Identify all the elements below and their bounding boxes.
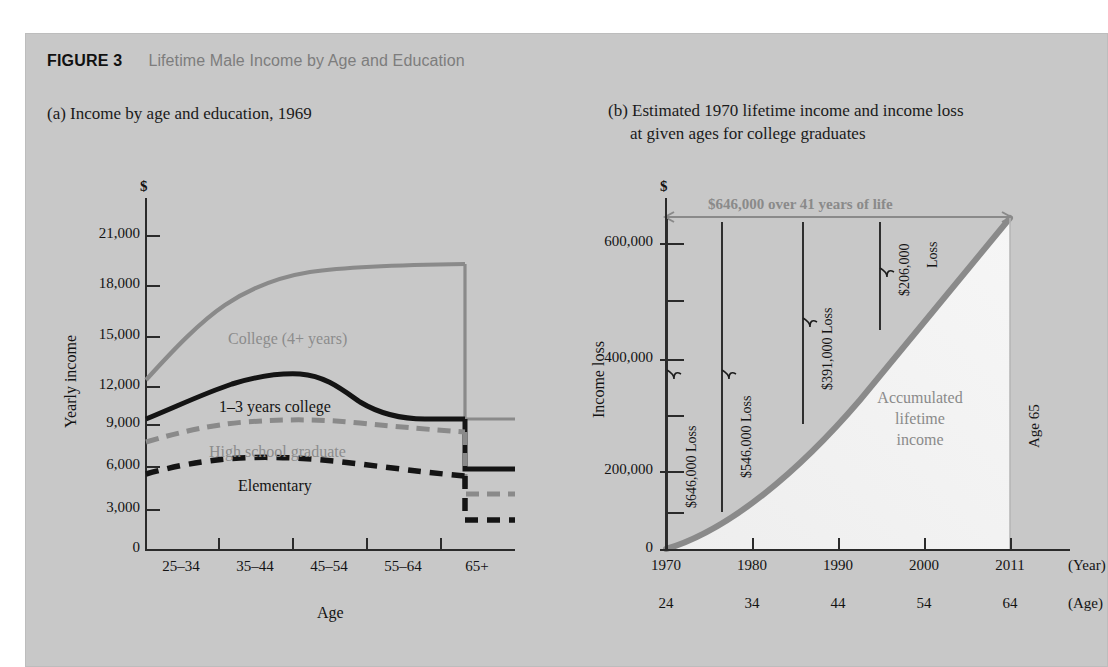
panel-b-y-tick-mark [660,471,684,473]
age-65-label: Age 65 [1026,404,1043,448]
panel-b-x-tick-label-age: 24 [621,595,711,612]
panel-b-x-tick-label-age: 64 [965,595,1055,612]
curve-college [146,264,465,380]
panel-b-x-tick-label-year: 2011 [965,557,1055,574]
accumulated-income-label-line2: lifetime [860,409,980,430]
panel-b-x-tick-label-year: 1990 [793,557,883,574]
panel-b-x-tick-label-age: 54 [879,595,969,612]
panel-b-y-axis [665,198,667,550]
panel-b-top-annotation: $646,000 over 41 years of life [708,196,893,213]
curve-some-college-drop [465,419,515,469]
panel-b-x-tick-label-year: 1980 [707,557,797,574]
series-label-high-school: High school graduate [209,443,346,461]
loss-label-206000-suffix: Loss [925,242,941,268]
panel-b-y-tick-label: 600,000 [550,233,653,250]
panel-b-y-tick-label: 200,000 [550,461,653,478]
accumulated-income-label: Accumulated lifetime income [860,388,980,450]
panel-b-y-tick-mark [660,359,684,361]
series-label-elementary: Elementary [238,477,312,495]
panel-b-y-minor-tick [666,512,684,514]
panel-b-y-minor-tick [666,300,684,302]
panel-b-y-axis-label: Income loss [590,341,608,418]
panel-b-x-unit-year: (Year) [1068,557,1108,574]
panel-a-x-axis-label: Age [317,604,344,622]
curve-high-school-drop [465,432,515,494]
panel-b-x-tick-label-age: 44 [793,595,883,612]
top-span-arrow [665,212,1011,222]
panel-b-x-tick-mark [1010,538,1012,551]
panel-b-x-tick-mark [752,538,754,551]
curve-college-drop [465,264,515,419]
panel-a-y-axis-label: Yearly income [62,335,80,428]
panel-b-x-tick-mark [924,538,926,551]
curve-elementary-drop [465,476,515,520]
panel-b-y-tick-mark [660,243,684,245]
panel-b-x-tick-label-age: 34 [707,595,797,612]
panel-b-y-tick-mark [660,549,668,551]
panel-b-x-tick-mark [838,538,840,551]
chart-panel-a: $ 21,00018,00015,00012,0009,0006,0003,00… [0,0,560,667]
accumulated-income-label-line3: income [860,430,980,451]
panel-b-y-minor-tick [666,415,684,417]
panel-b-x-tick-label-year: 2000 [879,557,969,574]
series-label-college: College (4+ years) [228,330,347,348]
loss-label-546000: $546,000 Loss [739,396,755,478]
loss-label-391000: $391,000 Loss [820,308,836,390]
accumulated-income-label-line1: Accumulated [860,388,980,409]
panel-b-x-unit-age: (Age) [1068,595,1108,612]
accumulated-income-area [666,218,1010,549]
chart-panel-b: $ [560,0,1108,667]
panel-b-x-tick-label-year: 1970 [621,557,711,574]
loss-label-646000: $646,000 Loss [684,426,700,508]
figure-root: FIGURE 3 Lifetime Male Income by Age and… [0,0,1108,667]
series-label-some-college: 1–3 years college [219,398,331,416]
curve-high-school [146,420,465,442]
loss-label-206000: $206,000 [897,244,913,297]
panel-b-y-tick-label: 0 [550,539,653,556]
